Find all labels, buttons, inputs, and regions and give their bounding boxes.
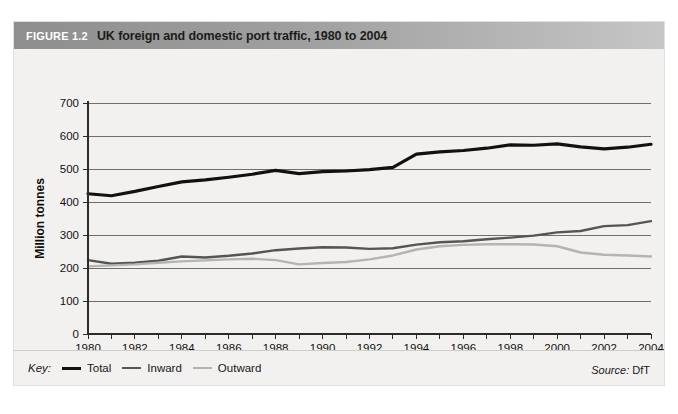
y-tick-label: 0 [73,328,79,340]
tickmarks-group [83,103,651,339]
source-label: Source: [591,364,629,376]
legend-swatch-outward [193,367,212,369]
figure-number-label: FIGURE 1.2 [26,30,88,42]
legend-label-outward: Outward [218,362,261,374]
figure-title: UK foreign and domestic port traffic, 19… [97,29,387,43]
legend-entry-outward: Outward [193,362,261,374]
legend-label-total: Total [87,362,111,374]
legend-swatch-total [62,367,81,370]
y-tick-label: 200 [60,262,79,274]
series-line-total [88,144,651,196]
legend-swatch-inward [122,367,141,369]
y-tick-label: 600 [60,130,79,142]
y-tick-label: 300 [60,229,79,241]
y-axis-title: Million tonnes [33,178,47,259]
series-line-outward [88,244,651,266]
data-series-group [88,144,651,266]
chart-legend: Key: Total Inward Outward Source: DfT [14,350,664,385]
figure-header: FIGURE 1.2 UK foreign and domestic port … [14,22,664,49]
y-tick-label: 700 [60,97,79,109]
y-axis-tick-labels: 0100200300400500600700 [60,97,79,340]
legend-entry-inward: Inward [122,362,182,374]
y-tick-label: 100 [60,295,79,307]
legend-entry-total: Total [62,362,111,374]
line-chart: 0100200300400500600700 19801982198419861… [14,49,664,351]
y-tick-label: 500 [60,163,79,175]
gridlines-group [88,103,651,301]
figure-panel: FIGURE 1.2 UK foreign and domestic port … [14,22,664,385]
source-value: DfT [632,364,650,376]
legend-key-label: Key: [28,362,51,374]
series-line-inward [88,221,651,264]
source-note: Source: DfT [591,364,650,376]
chart-plot-area: 0100200300400500600700 19801982198419861… [14,49,664,385]
y-tick-label: 400 [60,196,79,208]
legend-label-inward: Inward [147,362,182,374]
